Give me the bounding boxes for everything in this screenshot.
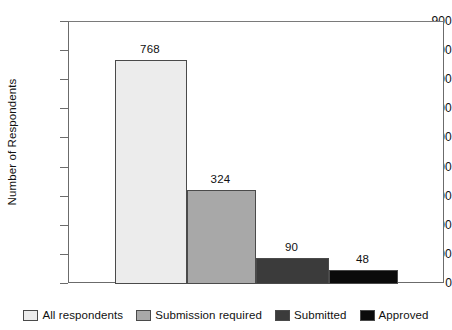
legend-swatch-icon [23, 310, 38, 321]
bar [329, 270, 398, 284]
y-axis-tick [60, 50, 68, 51]
y-axis-title-text: Number of Respondents [6, 78, 18, 205]
bar-value-label: 768 [140, 43, 160, 55]
bar-value-label: 48 [356, 253, 369, 265]
y-axis-tick [60, 254, 68, 255]
legend-item-label: All respondents [42, 309, 123, 321]
legend-item-label: Submitted [294, 309, 347, 321]
bar [187, 190, 256, 284]
legend-item-label: Submission required [155, 309, 262, 321]
legend-swatch-icon [136, 310, 151, 321]
bar-value-label: 90 [285, 241, 298, 253]
legend-swatch-icon [275, 310, 290, 321]
y-axis-tick [60, 108, 68, 109]
legend-swatch-icon [360, 310, 375, 321]
y-axis-tick [60, 21, 68, 22]
y-axis-tick [60, 167, 68, 168]
y-axis-tick [60, 79, 68, 80]
y-axis-title: Number of Respondents [0, 0, 24, 283]
legend-item[interactable]: Approved [360, 309, 429, 321]
chart-legend: All respondentsSubmission requiredSubmit… [0, 303, 452, 327]
y-axis-tick [60, 225, 68, 226]
bar-chart-figure: Number of Respondents 900800700600500400… [0, 0, 452, 330]
y-axis-tick [60, 283, 68, 284]
bar-value-label: 324 [211, 173, 231, 185]
legend-item[interactable]: Submitted [275, 309, 347, 321]
bar [256, 258, 329, 284]
legend-item[interactable]: All respondents [23, 309, 123, 321]
y-axis-tick [60, 137, 68, 138]
legend-item[interactable]: Submission required [136, 309, 262, 321]
plot-area [68, 21, 444, 283]
y-axis-tick [60, 196, 68, 197]
bar [115, 60, 187, 284]
legend-item-label: Approved [379, 309, 429, 321]
